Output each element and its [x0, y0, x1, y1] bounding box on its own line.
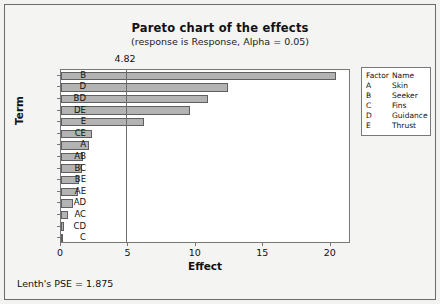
reference-line — [126, 70, 127, 242]
y-tick-label-A: A — [80, 139, 86, 149]
bar-CD — [61, 222, 64, 231]
y-tick-mark-BC — [57, 168, 60, 169]
legend-row-D: DGuidance — [366, 111, 426, 121]
factor-legend: Factor Name ASkinBSeekerCFinsDGuidanceET… — [361, 67, 431, 136]
bar-E — [61, 118, 144, 127]
y-tick-mark-AE — [57, 191, 60, 192]
legend-name-C: Fins — [392, 101, 426, 111]
legend-header-row: Factor Name — [366, 71, 426, 81]
legend-factor-A: A — [366, 81, 392, 91]
y-tick-mark-C — [57, 237, 60, 238]
legend-name-D: Guidance — [392, 111, 428, 121]
x-tick-mark-0 — [60, 243, 61, 246]
y-tick-label-DE: DE — [74, 105, 86, 115]
x-tick-label-5: 5 — [124, 247, 130, 258]
bar-AD — [61, 199, 73, 208]
y-tick-label-AE: AE — [75, 186, 86, 196]
legend-name-E: Thrust — [392, 121, 426, 131]
legend-name-A: Skin — [392, 81, 426, 91]
legend-rows: ASkinBSeekerCFinsDGuidanceEThrust — [366, 81, 426, 131]
x-tick-label-20: 20 — [324, 247, 336, 258]
y-tick-label-B: B — [80, 70, 86, 80]
y-tick-mark-D — [57, 86, 60, 87]
y-tick-label-BE: BE — [75, 174, 86, 184]
reference-line-label: 4.82 — [114, 53, 135, 64]
bars-layer — [61, 70, 349, 242]
x-axis-title: Effect — [60, 260, 350, 272]
legend-name-B: Seeker — [392, 91, 426, 101]
x-tick-label-15: 15 — [256, 247, 268, 258]
y-tick-label-BC: BC — [74, 163, 86, 173]
y-tick-mark-AC — [57, 214, 60, 215]
x-tick-mark-20 — [330, 243, 331, 246]
pareto-chart-page: Pareto chart of the effects (response is… — [0, 0, 440, 304]
legend-row-E: EThrust — [366, 121, 426, 131]
y-tick-mark-CD — [57, 226, 60, 227]
chart-title: Pareto chart of the effects — [5, 21, 435, 35]
legend-row-C: CFins — [366, 101, 426, 111]
x-tick-mark-10 — [195, 243, 196, 246]
y-tick-label-CD: CD — [74, 221, 86, 231]
y-tick-label-C: C — [80, 232, 86, 242]
y-tick-label-BD: BD — [74, 93, 86, 103]
y-tick-mark-BD — [57, 98, 60, 99]
legend-factor-D: D — [366, 111, 392, 121]
x-tick-label-0: 0 — [57, 247, 63, 258]
plot-area — [60, 69, 350, 243]
y-tick-mark-E — [57, 121, 60, 122]
legend-row-A: ASkin — [366, 81, 426, 91]
legend-header-name: Name — [392, 71, 426, 81]
y-tick-label-AD: AD — [74, 197, 86, 207]
y-axis-title: Term — [13, 96, 25, 125]
y-tick-label-AC: AC — [74, 209, 86, 219]
y-tick-mark-B — [57, 75, 60, 76]
x-tick-label-10: 10 — [189, 247, 201, 258]
legend-factor-B: B — [366, 91, 392, 101]
y-tick-label-CE: CE — [75, 128, 86, 138]
y-tick-label-AB: AB — [74, 151, 86, 161]
y-tick-mark-BE — [57, 179, 60, 180]
y-tick-mark-CE — [57, 133, 60, 134]
y-tick-mark-AD — [57, 202, 60, 203]
x-tick-mark-5 — [127, 243, 128, 246]
legend-header-factor: Factor — [366, 71, 392, 81]
legend-row-B: BSeeker — [366, 91, 426, 101]
y-tick-mark-AB — [57, 156, 60, 157]
bar-C — [61, 234, 63, 243]
bar-AC — [61, 211, 68, 220]
chart-subtitle: (response is Response, Alpha = 0.05) — [5, 36, 435, 47]
y-tick-label-E: E — [81, 116, 86, 126]
lenths-pse-note: Lenth's PSE = 1.875 — [17, 278, 113, 289]
y-tick-mark-A — [57, 144, 60, 145]
x-tick-mark-15 — [262, 243, 263, 246]
bar-B — [61, 72, 336, 81]
y-tick-mark-DE — [57, 110, 60, 111]
legend-factor-E: E — [366, 121, 392, 131]
legend-factor-C: C — [366, 101, 392, 111]
y-tick-label-D: D — [79, 81, 86, 91]
chart-outer-frame: Pareto chart of the effects (response is… — [4, 4, 436, 300]
